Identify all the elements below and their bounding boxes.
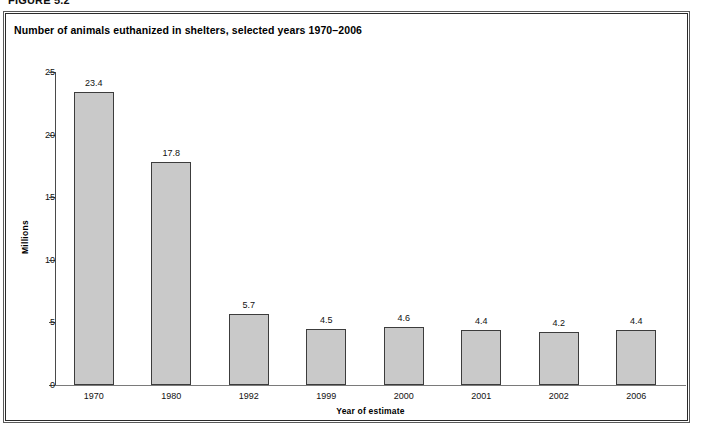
figure-caption: FIGURE 5.2 <box>8 0 70 6</box>
figure-page: FIGURE 5.2 Number of animals euthanized … <box>0 0 703 427</box>
chart-title: Number of animals euthanized in shelters… <box>14 24 362 36</box>
figure-inner-border <box>5 13 688 421</box>
